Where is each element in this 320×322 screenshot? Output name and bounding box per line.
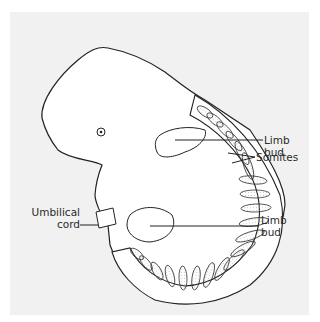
umbilical-cord	[96, 208, 116, 228]
label-line: cord	[22, 218, 80, 230]
label-limb-bud-lower: Limb bud	[261, 214, 287, 238]
label-line: Limb	[261, 214, 287, 226]
label-somites: Somites	[256, 151, 298, 163]
label-line: bud	[261, 226, 287, 238]
label-line: Somites	[256, 151, 298, 163]
label-line: Umbilical	[22, 206, 80, 218]
label-line: Limb	[264, 134, 290, 146]
label-umbilical-cord: Umbilical cord	[22, 206, 80, 230]
